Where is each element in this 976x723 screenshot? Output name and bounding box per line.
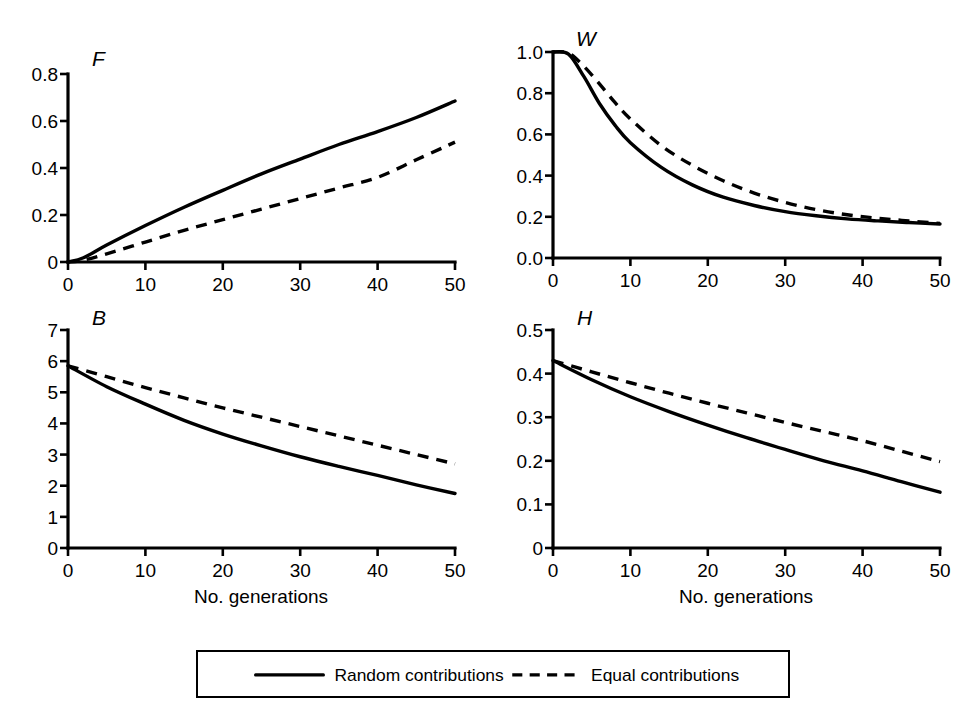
y-tick-label: 0.5 <box>517 320 543 341</box>
y-tick-label: 2 <box>47 476 58 497</box>
series-group-W <box>553 52 940 224</box>
y-tick-label: 4 <box>47 413 58 434</box>
y-tick-label: 7 <box>47 320 58 341</box>
series-group-H <box>553 361 940 493</box>
x-tick-label: 40 <box>367 274 388 295</box>
x-tick-label: 50 <box>929 560 950 581</box>
chart-svg-H: 00.10.20.30.40.5 01020304050 H No. gener… <box>488 310 976 610</box>
x-ticklabels-H: 01020304050 <box>548 560 951 581</box>
panel-letter-B: B <box>92 310 106 329</box>
series-group-B <box>68 366 455 494</box>
x-tick-label: 10 <box>135 560 156 581</box>
y-tick-label: 0.8 <box>517 83 543 104</box>
y-tick-label: 0.4 <box>517 364 544 385</box>
x-ticklabels-B: 01020304050 <box>63 560 466 581</box>
x-tick-label: 10 <box>620 560 641 581</box>
y-axis-W: 0.00.20.40.60.81.0 <box>517 42 553 269</box>
x-tick-label: 40 <box>367 560 388 581</box>
x-tick-label: 50 <box>444 560 465 581</box>
x-tick-label: 40 <box>852 560 873 581</box>
y-tick-label: 0.3 <box>517 407 543 428</box>
chart-svg-F: 00.20.40.60.8 01020304050 F <box>0 18 488 310</box>
x-tick-label: 10 <box>135 274 156 295</box>
y-tick-label: 0.4 <box>517 166 544 187</box>
series-line-equal <box>553 361 940 462</box>
x-axis-B: 01020304050 <box>63 548 466 581</box>
x-axis-W: 01020304050 <box>548 258 951 291</box>
y-ticklabels-H: 00.10.20.30.40.5 <box>517 320 544 559</box>
y-tick-label: 6 <box>47 351 58 372</box>
y-tick-label: 0.6 <box>32 111 58 132</box>
chart-svg-B: 01234567 01020304050 B No. generations <box>0 310 488 610</box>
x-axis-H: 01020304050 <box>548 548 951 581</box>
y-tick-label: 1 <box>47 507 58 528</box>
series-line-random <box>553 52 940 224</box>
legend-svg: Random contributionsEqual contributions <box>198 652 788 696</box>
x-axis-title-B: No. generations <box>194 586 328 607</box>
y-tick-label: 0.2 <box>517 451 543 472</box>
x-tick-label: 40 <box>852 270 873 291</box>
y-tick-label: 3 <box>47 445 58 466</box>
series-line-equal <box>68 366 455 464</box>
x-tick-label: 0 <box>548 270 559 291</box>
y-axis-F: 00.20.40.60.8 <box>32 64 68 273</box>
chart-svg-W: 0.00.20.40.60.81.0 01020304050 W <box>488 18 976 310</box>
x-tick-label: 50 <box>929 270 950 291</box>
x-axis-F: 01020304050 <box>63 262 466 295</box>
y-tick-label: 0.1 <box>517 494 543 515</box>
series-line-random <box>553 361 940 493</box>
chart-panel-F: 00.20.40.60.8 01020304050 F <box>0 18 488 310</box>
figure-panel-grid: 00.20.40.60.8 01020304050 F 0.00.20.40.6… <box>0 0 976 723</box>
x-tick-label: 20 <box>212 274 233 295</box>
panel-letter-F: F <box>92 47 106 70</box>
x-tick-label: 0 <box>548 560 559 581</box>
y-ticklabels-B: 01234567 <box>47 320 58 559</box>
y-tick-label: 0.8 <box>32 64 58 85</box>
y-tick-label: 0.2 <box>32 205 58 226</box>
y-ticklabels-F: 00.20.40.60.8 <box>32 64 59 273</box>
chart-panel-H: 00.10.20.30.40.5 01020304050 H No. gener… <box>488 310 976 610</box>
y-tick-label: 0.0 <box>517 248 543 269</box>
x-tick-label: 0 <box>63 560 74 581</box>
x-tick-label: 50 <box>444 274 465 295</box>
x-tick-label: 30 <box>290 274 311 295</box>
y-tick-label: 0.6 <box>517 124 543 145</box>
x-axis-title-H: No. generations <box>679 586 813 607</box>
x-tick-label: 20 <box>697 270 718 291</box>
legend-label: Equal contributions <box>591 665 739 685</box>
x-tick-label: 10 <box>620 270 641 291</box>
x-tick-label: 0 <box>63 274 74 295</box>
y-tick-label: 0 <box>47 538 58 559</box>
x-tick-label: 20 <box>697 560 718 581</box>
y-tick-label: 5 <box>47 382 58 403</box>
y-axis-H: 00.10.20.30.40.5 <box>517 320 553 559</box>
panel-letter-H: H <box>577 310 593 329</box>
y-tick-label: 0 <box>47 252 58 273</box>
y-axis-B: 01234567 <box>47 320 68 559</box>
series-line-equal <box>553 52 940 224</box>
x-tick-label: 30 <box>775 560 796 581</box>
x-tick-label: 30 <box>775 270 796 291</box>
y-ticklabels-W: 0.00.20.40.60.81.0 <box>517 42 544 269</box>
x-tick-label: 20 <box>212 560 233 581</box>
y-tick-label: 0.2 <box>517 207 543 228</box>
chart-panel-B: 01234567 01020304050 B No. generations <box>0 310 488 610</box>
chart-panel-W: 0.00.20.40.60.81.0 01020304050 W <box>488 18 976 310</box>
series-line-equal <box>68 142 455 262</box>
x-ticklabels-W: 01020304050 <box>548 270 951 291</box>
x-ticklabels-F: 01020304050 <box>63 274 466 295</box>
x-tick-label: 30 <box>290 560 311 581</box>
series-line-random <box>68 366 455 494</box>
legend: Random contributionsEqual contributions <box>196 650 790 698</box>
y-tick-label: 1.0 <box>517 42 543 63</box>
panel-letter-W: W <box>576 27 598 50</box>
series-group-F <box>68 101 455 262</box>
legend-label: Random contributions <box>334 665 504 685</box>
y-tick-label: 0.4 <box>32 158 59 179</box>
series-line-random <box>68 101 455 262</box>
y-tick-label: 0 <box>532 538 543 559</box>
